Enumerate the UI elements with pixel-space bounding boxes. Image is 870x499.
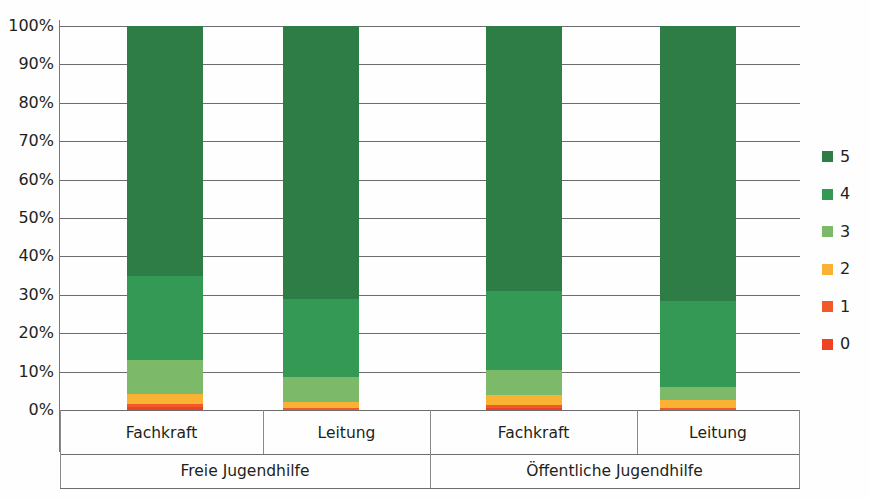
bar-segment-3[interactable]	[660, 387, 736, 400]
legend-swatch-icon	[822, 189, 833, 200]
y-tick-label: 70%	[2, 133, 54, 149]
y-tick-label: 10%	[2, 364, 54, 380]
legend-swatch-icon	[822, 151, 833, 162]
category-label: Fachkraft	[60, 426, 263, 442]
y-tick-label: 60%	[2, 172, 54, 188]
bar-segment-4[interactable]	[660, 301, 736, 387]
category-label: Leitung	[263, 426, 430, 442]
legend-label: 5	[840, 149, 850, 165]
legend-swatch-icon	[822, 339, 833, 350]
bar-segment-2[interactable]	[486, 395, 562, 405]
legend-item-3[interactable]: 3	[822, 213, 868, 251]
bar-segment-5[interactable]	[660, 26, 736, 301]
legend-swatch-icon	[822, 226, 833, 237]
bar-segment-5[interactable]	[486, 26, 562, 291]
y-tick-label: 100%	[2, 18, 54, 34]
legend-label: 4	[840, 186, 850, 202]
legend-item-0[interactable]: 0	[822, 326, 868, 364]
bar-segment-5[interactable]	[283, 26, 359, 299]
bar-segment-2[interactable]	[127, 394, 203, 404]
legend-label: 2	[840, 261, 850, 277]
group-label: Öffentliche Jugendhilfe	[430, 464, 799, 480]
bar-segment-1[interactable]	[127, 404, 203, 407]
bar-segment-1[interactable]	[486, 405, 562, 408]
bar-segment-5[interactable]	[127, 26, 203, 276]
legend-swatch-icon	[822, 301, 833, 312]
y-tick-label: 80%	[2, 95, 54, 111]
bar-1[interactable]	[127, 26, 203, 410]
bar-3[interactable]	[486, 26, 562, 410]
bar-4[interactable]	[660, 26, 736, 410]
y-tick-label: 0%	[2, 402, 54, 418]
legend-swatch-icon	[822, 264, 833, 275]
category-label: Fachkraft	[430, 426, 637, 442]
legend-label: 1	[840, 299, 850, 315]
bar-segment-4[interactable]	[127, 276, 203, 360]
bar-segment-4[interactable]	[283, 299, 359, 378]
y-tick-label: 30%	[2, 287, 54, 303]
category-separator-4	[799, 410, 800, 488]
bar-segment-3[interactable]	[127, 360, 203, 394]
bar-segment-3[interactable]	[486, 370, 562, 394]
y-tick-label: 40%	[2, 248, 54, 264]
bar-segment-4[interactable]	[486, 291, 562, 370]
bar-2[interactable]	[283, 26, 359, 410]
bar-segment-2[interactable]	[660, 400, 736, 408]
legend-item-5[interactable]: 5	[822, 138, 868, 176]
legend-item-4[interactable]: 4	[822, 176, 868, 214]
bar-segment-2[interactable]	[283, 402, 359, 407]
stacked-bar-chart: 0%10%20%30%40%50%60%70%80%90%100% Fachkr…	[0, 0, 870, 499]
plot-area	[60, 26, 800, 410]
cat-rule-bottom	[60, 488, 800, 489]
y-tick-label: 20%	[2, 325, 54, 341]
legend-label: 0	[840, 336, 850, 352]
group-label: Freie Jugendhilfe	[60, 464, 430, 480]
y-tick-label: 50%	[2, 210, 54, 226]
legend-item-1[interactable]: 1	[822, 288, 868, 326]
category-axis: FachkraftLeitungFachkraftLeitungFreie Ju…	[60, 410, 800, 488]
category-label: Leitung	[637, 426, 799, 442]
y-axis-tick-labels: 0%10%20%30%40%50%60%70%80%90%100%	[0, 26, 54, 410]
bar-segment-3[interactable]	[283, 377, 359, 402]
chart-legend: 543210	[822, 138, 868, 363]
legend-item-2[interactable]: 2	[822, 251, 868, 289]
y-tick-label: 90%	[2, 56, 54, 72]
legend-label: 3	[840, 224, 850, 240]
